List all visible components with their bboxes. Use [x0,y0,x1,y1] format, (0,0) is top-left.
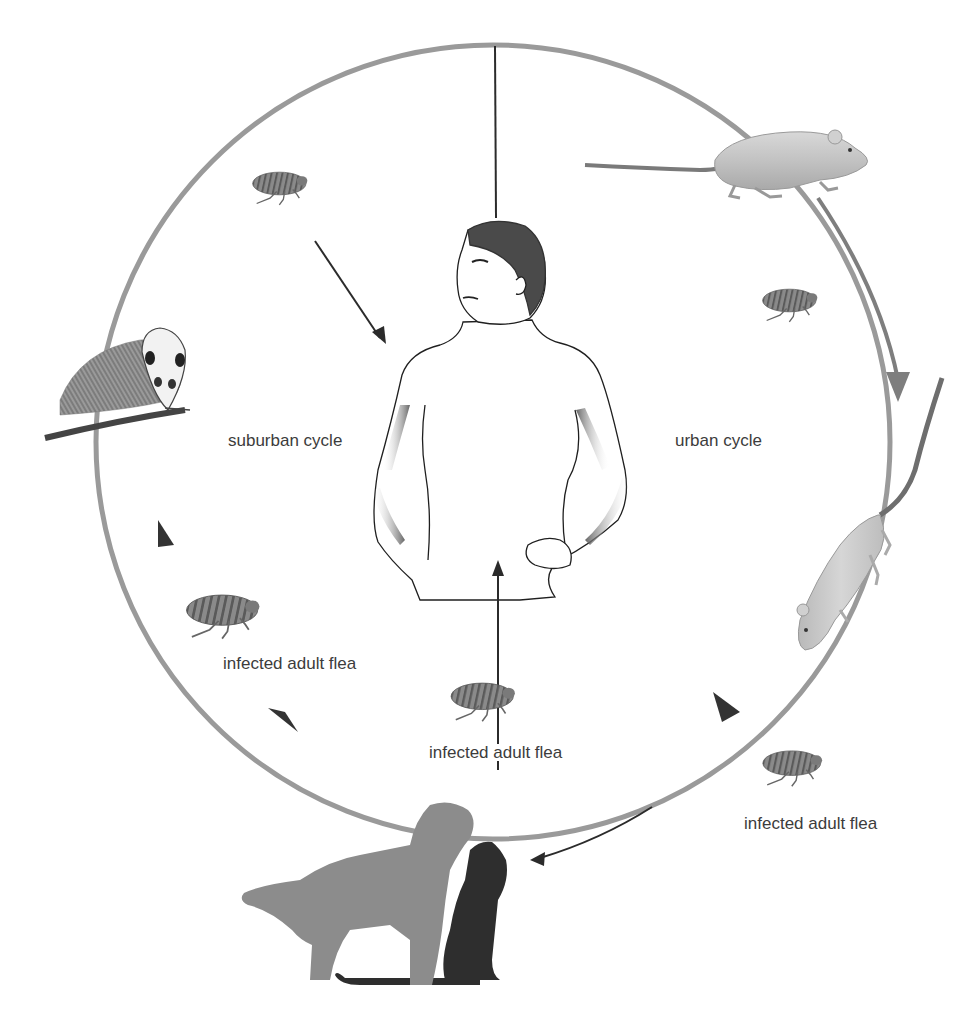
infected-flea-label-center: infected adult flea [427,744,564,761]
cycle-arrowhead-right [713,692,740,722]
flea-icon [253,172,308,205]
opossum-icon [45,328,190,438]
mouse-icon [585,130,868,198]
dog-icon [242,802,474,985]
connector-line-top [495,46,496,218]
flea-icon [187,595,260,639]
flea-icon [763,751,822,786]
flea-icon [763,289,818,322]
flea-icon [451,683,515,721]
cycle-arrowhead-left-upper [158,520,174,547]
arrow-flea-to-human [315,241,386,344]
rat-icon [797,378,942,650]
human-figure-icon [372,221,630,600]
cycle-arrowhead-left-lower [268,708,298,732]
plague-cycle-diagram [0,0,979,1025]
infected-flea-label-left: infected adult flea [223,655,356,672]
infected-flea-label-right: infected adult flea [744,815,877,832]
suburban-cycle-label: suburban cycle [228,432,342,449]
urban-cycle-label: urban cycle [675,432,762,449]
